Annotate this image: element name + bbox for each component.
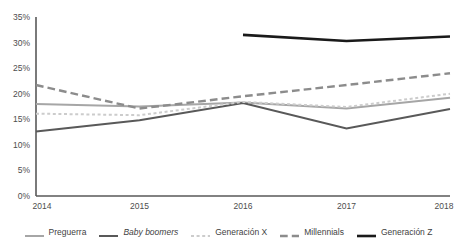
x-axis-tick-label: 2017: [337, 201, 356, 211]
legend-swatch-icon: [280, 227, 299, 237]
legend-item-baby-boomers[interactable]: Baby boomers: [99, 227, 178, 237]
legend-swatch-icon: [99, 227, 118, 237]
x-axis-tick-label: 2016: [234, 201, 253, 211]
y-axis-tick-label: 5%: [18, 165, 31, 175]
y-axis-tick-labels: 0%5%10%15%20%25%30%35%: [13, 12, 30, 201]
y-axis-tick-label: 30%: [13, 38, 30, 48]
legend-swatch-icon: [25, 227, 44, 237]
series-line-baby-boomers: [36, 103, 450, 132]
legend-item-label: Baby boomers: [123, 227, 178, 237]
plot-area: 0%5%10%15%20%25%30%35% 20142015201620172…: [0, 0, 457, 215]
y-axis-tick-label: 25%: [13, 63, 30, 73]
legend-item-generación-z[interactable]: Generación Z: [357, 227, 433, 237]
series-line-generación-z: [243, 35, 450, 41]
legend-item-label: Preguerra: [49, 227, 87, 237]
legend-item-millennials[interactable]: Millennials: [280, 227, 344, 237]
x-axis-tick-labels: 20142015201620172018: [33, 201, 454, 211]
x-axis-tick-label: 2014: [33, 201, 52, 211]
y-axis-tick-label: 0%: [18, 191, 31, 201]
legend-item-preguerra[interactable]: Preguerra: [25, 227, 87, 237]
x-axis-tick-label: 2015: [130, 201, 149, 211]
chart-legend: PreguerraBaby boomersGeneración XMillenn…: [0, 222, 457, 242]
legend-item-label: Generación Z: [381, 227, 433, 237]
series-lines: [36, 35, 450, 132]
y-axis-tick-label: 10%: [13, 140, 30, 150]
legend-swatch-icon: [191, 227, 210, 237]
legend-item-generación-x[interactable]: Generación X: [191, 227, 267, 237]
legend-item-label: Millennials: [304, 227, 344, 237]
y-axis-tick-label: 15%: [13, 114, 30, 124]
legend-item-label: Generación X: [215, 227, 267, 237]
y-axis-tick-label: 35%: [13, 12, 30, 22]
line-chart: 0%5%10%15%20%25%30%35% 20142015201620172…: [0, 0, 457, 247]
legend-swatch-icon: [357, 227, 376, 237]
x-axis-tick-label: 2018: [435, 201, 454, 211]
y-axis-tick-label: 20%: [13, 89, 30, 99]
